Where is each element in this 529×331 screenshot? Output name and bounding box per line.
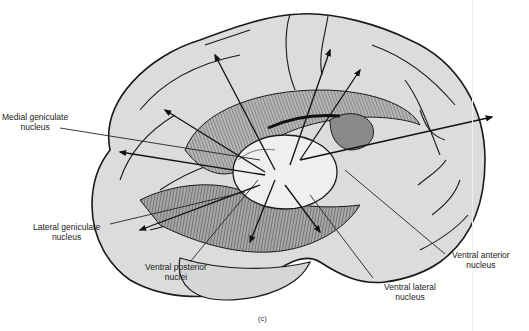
brain-thalamus-diagram <box>0 0 529 331</box>
label-ventral-anterior-nucleus: Ventral anterior nucleus <box>452 250 510 270</box>
label-medial-geniculate-nucleus: Medial geniculate nucleus <box>2 112 68 132</box>
panel-label: (c) <box>258 314 267 323</box>
label-ventral-lateral-nucleus: Ventral lateral nucleus <box>384 282 436 302</box>
label-lateral-geniculate-nucleus: Lateral geniculate nucleus <box>33 222 100 242</box>
label-ventral-posterior-nuclei: Ventral posterior nuclei <box>145 262 207 282</box>
page-fold-line <box>472 0 473 331</box>
